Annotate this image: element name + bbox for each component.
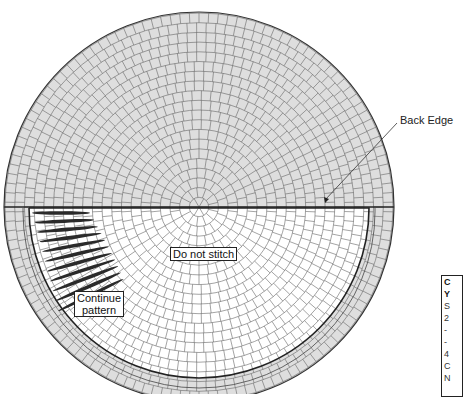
legend-line: 4 xyxy=(444,348,462,360)
partial-legend-box: CYS2--4CN xyxy=(441,275,463,397)
legend-line: C xyxy=(444,360,462,372)
continue-pattern-label: Continue pattern xyxy=(74,291,124,317)
back-edge-label: Back Edge xyxy=(400,114,453,126)
legend-line: C xyxy=(444,276,462,288)
legend-line: 2 xyxy=(444,312,462,324)
outer-disc xyxy=(4,12,394,394)
legend-line: - xyxy=(444,324,462,336)
legend-line: Y xyxy=(444,288,462,300)
legend-line: S xyxy=(444,300,462,312)
legend-line: - xyxy=(444,336,462,348)
do-not-stitch-label: Do not stitch xyxy=(170,247,237,261)
legend-line: N xyxy=(444,372,462,384)
continue-pattern-line2: pattern xyxy=(77,304,121,316)
continue-pattern-line1: Continue xyxy=(77,292,121,304)
